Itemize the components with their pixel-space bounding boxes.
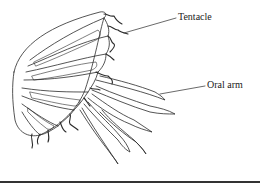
jellyfish-diagram: Tentacle Oral arm: [0, 0, 260, 188]
oral-arm-leader-line: [160, 86, 205, 94]
tentacle-leader-line: [124, 18, 176, 33]
label-tentacle: Tentacle: [178, 12, 212, 22]
bottom-rule: [0, 181, 260, 183]
bell-margin: [40, 18, 109, 135]
bell-outline: [13, 12, 106, 136]
jellyfish-illustration: [0, 0, 260, 188]
label-oral-arm: Oral arm: [207, 80, 243, 90]
